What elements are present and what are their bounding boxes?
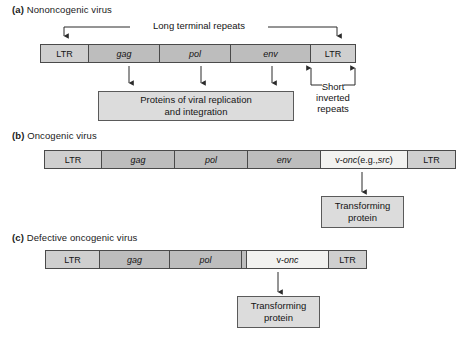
segment-gag-c[interactable]: gag	[100, 251, 170, 268]
panel-label-b: (b)	[12, 130, 24, 141]
vonc-gene-b: onc	[343, 155, 358, 165]
product-line-2-b: protein	[335, 212, 391, 224]
gene-product-arrows-a	[129, 66, 272, 83]
panel-heading-b: (b) Oncogenic virus	[12, 130, 97, 141]
panel-label-c: (c)	[12, 232, 24, 243]
panel-title-b: Oncogenic virus	[27, 130, 97, 141]
segment-vonc-c[interactable]: v-onc	[247, 251, 329, 268]
segment-vonc-b[interactable]: v-onc (e.g., src)	[321, 151, 408, 168]
product-box-transforming-protein-b[interactable]: Transforming protein	[321, 196, 404, 228]
panel-heading-c: (c) Defective oncogenic virus	[12, 232, 137, 243]
segment-gag-b[interactable]: gag	[102, 151, 175, 168]
segment-gag-a[interactable]: gag	[89, 45, 160, 62]
genome-bar-a: LTR gag pol env LTR	[40, 44, 356, 63]
product-box-viral-proteins[interactable]: Proteins of viral replication and integr…	[98, 91, 294, 121]
segment-ltr-5prime-a[interactable]: LTR	[41, 45, 89, 62]
segment-env-a[interactable]: env	[231, 45, 311, 62]
short-inverted-repeats-line-1: Short	[303, 81, 363, 92]
segment-ltr-3prime-a[interactable]: LTR	[311, 45, 355, 62]
segment-pol-c[interactable]: pol	[170, 251, 242, 268]
retroviral-genome-figure: (a) Nononcogenic virus Long terminal rep…	[0, 0, 474, 345]
segment-pol-b[interactable]: pol	[175, 151, 248, 168]
short-inverted-repeats-line-2: inverted	[303, 92, 363, 103]
product-line-2-a: and integration	[140, 106, 251, 118]
genome-bar-b: LTR gag pol env v-onc (e.g., src) LTR	[44, 150, 456, 169]
genome-bar-c: LTR gag pol v-onc LTR	[45, 250, 367, 269]
product-line-1-c: Transforming	[251, 300, 307, 312]
panel-heading-a: (a) Nononcogenic virus	[12, 4, 112, 15]
vonc-gene-c: onc	[284, 255, 299, 265]
product-line-2-c: protein	[251, 312, 307, 324]
segment-ltr-5prime-b[interactable]: LTR	[45, 151, 102, 168]
segment-pol-a[interactable]: pol	[160, 45, 231, 62]
panel-title-a: Nononcogenic virus	[27, 4, 112, 15]
segment-ltr-5prime-c[interactable]: LTR	[46, 251, 100, 268]
vonc-suffix-b: )	[390, 155, 393, 165]
vonc-example-b: src	[378, 155, 390, 165]
product-line-1-b: Transforming	[335, 200, 391, 212]
vonc-prefix-b: v-	[335, 155, 343, 165]
vonc-prefix-c: v-	[276, 255, 284, 265]
product-line-1-a: Proteins of viral replication	[140, 94, 251, 106]
segment-env-b[interactable]: env	[248, 151, 321, 168]
short-inverted-repeats-line-3: repeats	[303, 103, 363, 114]
long-terminal-repeats-label: Long terminal repeats	[132, 20, 266, 31]
segment-ltr-3prime-b[interactable]: LTR	[408, 151, 455, 168]
vonc-middle-b: (e.g.,	[357, 155, 378, 165]
panel-title-c: Defective oncogenic virus	[27, 232, 138, 243]
product-box-transforming-protein-c[interactable]: Transforming protein	[237, 296, 320, 328]
segment-ltr-3prime-c[interactable]: LTR	[329, 251, 366, 268]
panel-label-a: (a)	[12, 4, 24, 15]
